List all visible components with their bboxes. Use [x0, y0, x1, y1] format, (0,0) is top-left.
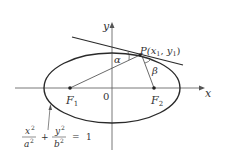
svg-text:2: 2: [31, 124, 35, 131]
svg-text:a: a: [24, 139, 29, 149]
alpha-arc: [128, 52, 129, 60]
focus-2-dot: [152, 86, 156, 90]
ellipse-diagram: y x 0 F1 F2 P(x1, y1) α β x 2 a 2 + y 2 …: [0, 0, 225, 162]
svg-text:1: 1: [86, 132, 92, 142]
svg-text:=: =: [72, 132, 80, 142]
ellipse-equation: x 2 a 2 + y 2 b 2 = 1: [22, 124, 92, 149]
svg-text:2: 2: [60, 137, 64, 144]
origin-label: 0: [103, 91, 109, 102]
x-axis-label: x: [205, 87, 212, 100]
svg-text:y: y: [54, 126, 61, 136]
equation-pointer: [48, 108, 50, 130]
svg-text:x: x: [25, 126, 30, 136]
y-axis-arrow-icon: [110, 22, 115, 28]
svg-text:2: 2: [61, 124, 65, 131]
svg-text:2: 2: [30, 137, 34, 144]
svg-text:+: +: [41, 132, 49, 142]
beta-label: β: [151, 65, 158, 76]
focus-2-label: F2: [150, 94, 163, 108]
focus-1-dot: [68, 86, 72, 90]
y-axis-label: y: [102, 20, 110, 33]
focal-radius-1: [70, 55, 140, 88]
focus-1-label: F1: [65, 94, 78, 108]
beta-arc: [145, 59, 151, 63]
alpha-label: α: [114, 54, 121, 65]
